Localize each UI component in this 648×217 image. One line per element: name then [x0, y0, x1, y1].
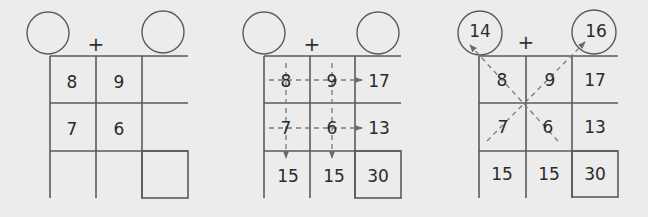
cell-r1-sum: 17 [584, 70, 606, 90]
cell-r2c2: 6 [327, 118, 338, 138]
cell-r2-sum: 13 [368, 118, 390, 138]
cell-r2c1: 7 [498, 117, 509, 137]
left-diagonal-circle [27, 12, 69, 54]
cell-grand-total: 30 [367, 166, 389, 186]
left-diagonal-circle [243, 12, 285, 54]
cell-r2c2: 6 [114, 119, 125, 139]
cell-r1c1: 8 [67, 72, 78, 92]
addition-grid-puzzle-diagram: + 8 9 7 6 + 8 9 17 7 6 13 15 15 [0, 0, 648, 217]
cell-c1-sum: 15 [491, 164, 513, 184]
cell-r1c1: 8 [497, 70, 508, 90]
total-box [142, 151, 188, 198]
cell-c2-sum: 15 [538, 164, 560, 184]
cell-grand-total: 30 [584, 164, 606, 184]
cell-r1c2: 9 [545, 70, 556, 90]
cell-c2-sum: 15 [323, 166, 345, 186]
right-diagonal-circle [357, 12, 399, 54]
plus-operator: + [88, 32, 105, 56]
left-diagonal-sum: 14 [469, 21, 491, 41]
cell-r1-sum: 17 [368, 71, 390, 91]
cell-r2c1: 7 [281, 118, 292, 138]
cell-r2-sum: 13 [584, 117, 606, 137]
plus-operator: + [304, 32, 321, 56]
panel-2: + 8 9 17 7 6 13 15 15 30 [243, 12, 401, 198]
cell-r2c1: 7 [67, 119, 78, 139]
cell-r1c2: 9 [114, 72, 125, 92]
panel-3: 14 16 + 8 9 17 7 6 13 15 15 30 [458, 10, 618, 198]
cell-r1c2: 9 [327, 71, 338, 91]
panel-1: + 8 9 7 6 [27, 11, 188, 198]
cell-r2c2: 6 [543, 117, 554, 137]
plus-operator: + [518, 30, 535, 54]
cell-r1c1: 8 [281, 71, 292, 91]
right-diagonal-circle [142, 11, 184, 53]
cell-c1-sum: 15 [277, 166, 299, 186]
right-diagonal-sum: 16 [585, 21, 607, 41]
